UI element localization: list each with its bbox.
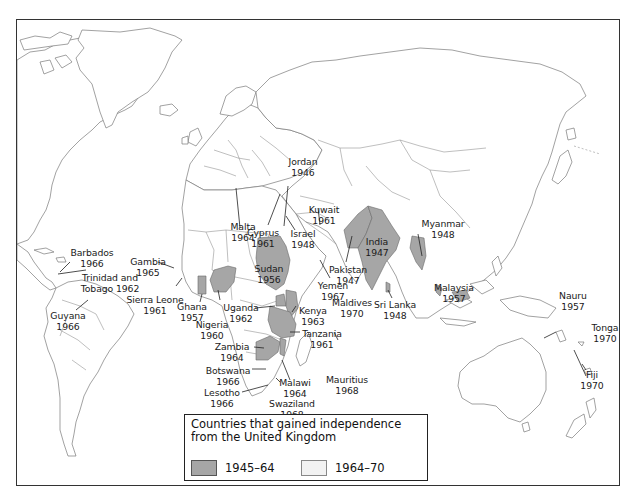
label-botswana: Botswana1966 [206, 366, 251, 387]
label-israel: Israel1948 [291, 229, 316, 250]
map-legend: Countries that gained independence from … [184, 414, 428, 481]
legend-label-1945-64: 1945–64 [225, 461, 275, 475]
shaded-ghana [198, 276, 206, 294]
label-malawi: Malawi1964 [279, 378, 311, 399]
label-kuwait: Kuwait1961 [309, 205, 339, 226]
south-america [44, 280, 134, 456]
label-maldives: Maldives1970 [332, 298, 372, 319]
label-nauru: Nauru1957 [559, 291, 587, 312]
legend-label-1964-70: 1964–70 [335, 461, 385, 475]
label-tanzania: Tanzania1961 [302, 329, 342, 350]
label-tonga: Tonga1970 [592, 323, 619, 344]
label-barbados: Barbados1966 [70, 248, 113, 269]
label-myanmar: Myanmar1948 [422, 219, 465, 240]
label-sierra-leone: Sierra Leone1961 [126, 295, 183, 316]
label-jordan: Jordan1946 [289, 157, 318, 178]
label-malaysia: Malaysia1957 [434, 283, 474, 304]
label-guyana: Guyana1966 [50, 311, 85, 332]
label-zambia: Zambia1964 [215, 342, 250, 363]
australia [458, 338, 546, 422]
label-gambia: Gambia1965 [130, 257, 166, 278]
label-lesotho: Lesotho1966 [204, 388, 240, 409]
legend-keys: 1945–64 1964–70 [191, 460, 421, 476]
legend-swatch-1945-64 [191, 460, 217, 476]
label-mauritius: Mauritius1968 [326, 375, 368, 396]
label-kenya: Kenya1963 [299, 306, 327, 327]
label-sri-lanka: Sri Lanka1948 [374, 300, 416, 321]
label-cyprus: Cyprus1961 [247, 228, 279, 249]
label-india: India1947 [365, 237, 388, 258]
legend-title-line2: from the United Kingdom [191, 431, 421, 444]
label-sudan: Sudan1956 [255, 264, 284, 285]
shaded-uganda [276, 294, 286, 306]
label-fiji: Fiji1970 [580, 370, 603, 391]
label-uganda: Uganda1962 [223, 303, 258, 324]
legend-swatch-1964-70 [301, 460, 327, 476]
